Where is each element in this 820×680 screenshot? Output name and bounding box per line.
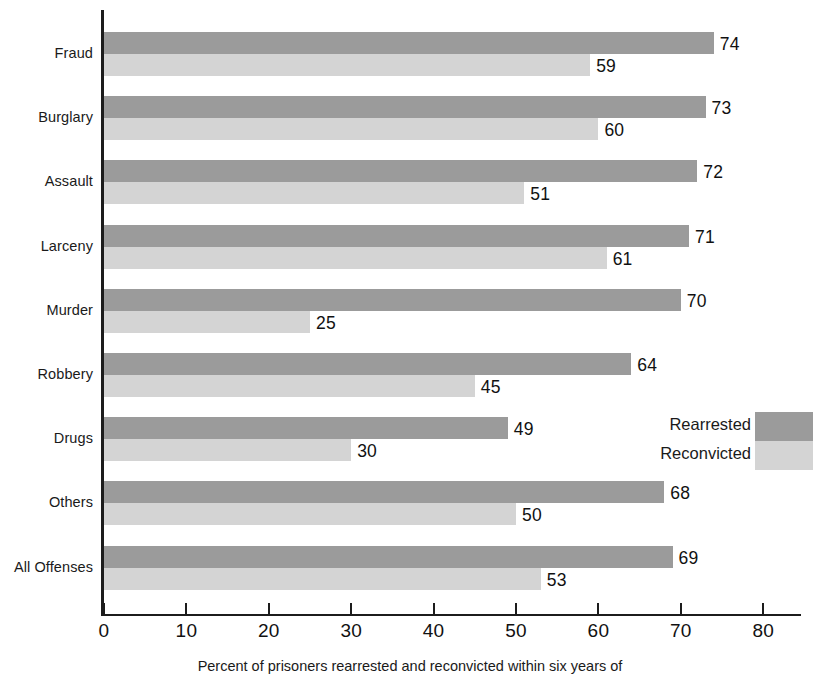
x-tick-40 <box>433 603 435 614</box>
bar-fraud-reconvicted <box>104 54 590 76</box>
bar-robbery-reconvicted <box>104 375 475 397</box>
category-label-assault: Assault <box>45 173 93 189</box>
x-tick-30 <box>350 603 352 614</box>
legend-item-rearrested: Rearrested <box>628 412 813 441</box>
category-label-others: Others <box>49 494 93 510</box>
bar-value-fraud-rearrested: 74 <box>720 34 740 55</box>
x-tick-10 <box>185 603 187 614</box>
x-tick-label-70: 70 <box>651 620 711 642</box>
legend-swatch-reconvicted <box>755 441 813 470</box>
bar-value-larceny-reconvicted: 61 <box>613 249 633 270</box>
bar-drugs-rearrested <box>104 417 508 439</box>
bar-value-all-offenses-reconvicted: 53 <box>547 570 567 591</box>
chart-caption: Percent of prisoners rearrested and reco… <box>0 658 820 674</box>
x-tick-70 <box>680 603 682 614</box>
legend-swatch-rearrested <box>755 412 813 441</box>
bar-drugs-reconvicted <box>104 439 351 461</box>
x-tick-label-60: 60 <box>568 620 628 642</box>
category-label-all-offenses: All Offenses <box>14 559 93 575</box>
bar-value-robbery-reconvicted: 45 <box>481 377 501 398</box>
x-tick-20 <box>268 603 270 614</box>
bar-value-assault-reconvicted: 51 <box>530 184 550 205</box>
bar-assault-reconvicted <box>104 182 524 204</box>
category-label-larceny: Larceny <box>41 238 93 254</box>
bar-value-robbery-rearrested: 64 <box>637 355 657 376</box>
bar-value-murder-rearrested: 70 <box>687 291 707 312</box>
category-label-fraud: Fraud <box>55 45 93 61</box>
x-tick-label-20: 20 <box>239 620 299 642</box>
bar-others-rearrested <box>104 481 664 503</box>
x-tick-80 <box>762 603 764 614</box>
legend-item-reconvicted: Reconvicted <box>628 441 813 470</box>
x-tick-label-10: 10 <box>156 620 216 642</box>
bar-chart: 01020304050607080 Fraud7459Burglary7360A… <box>0 0 820 680</box>
bar-value-assault-rearrested: 72 <box>703 162 723 183</box>
bar-value-drugs-reconvicted: 30 <box>357 441 377 462</box>
x-tick-50 <box>515 603 517 614</box>
legend: Rearrested Reconvicted <box>628 412 813 470</box>
x-tick-label-80: 80 <box>733 620 793 642</box>
bar-value-larceny-rearrested: 71 <box>695 227 715 248</box>
bar-value-burglary-reconvicted: 60 <box>604 120 624 141</box>
legend-label-rearrested: Rearrested <box>669 415 751 434</box>
bar-larceny-rearrested <box>104 225 689 247</box>
bar-larceny-reconvicted <box>104 247 607 269</box>
bar-others-reconvicted <box>104 503 516 525</box>
category-label-drugs: Drugs <box>54 430 93 446</box>
bar-value-burglary-rearrested: 73 <box>712 98 732 119</box>
legend-label-reconvicted: Reconvicted <box>660 444 751 463</box>
bar-murder-rearrested <box>104 289 681 311</box>
bar-value-others-rearrested: 68 <box>670 483 690 504</box>
x-tick-0 <box>103 603 105 614</box>
bar-all-offenses-reconvicted <box>104 568 541 590</box>
bar-fraud-rearrested <box>104 32 714 54</box>
bar-robbery-rearrested <box>104 353 631 375</box>
bar-burglary-rearrested <box>104 96 706 118</box>
x-axis-line <box>101 614 801 616</box>
x-tick-label-0: 0 <box>74 620 134 642</box>
bar-assault-rearrested <box>104 160 697 182</box>
bar-value-drugs-rearrested: 49 <box>514 419 534 440</box>
bar-value-all-offenses-rearrested: 69 <box>679 548 699 569</box>
bar-murder-reconvicted <box>104 311 310 333</box>
x-tick-60 <box>597 603 599 614</box>
x-tick-label-30: 30 <box>321 620 381 642</box>
category-label-burglary: Burglary <box>38 109 93 125</box>
category-label-murder: Murder <box>46 302 93 318</box>
x-tick-label-40: 40 <box>404 620 464 642</box>
category-label-robbery: Robbery <box>37 366 93 382</box>
x-tick-label-50: 50 <box>486 620 546 642</box>
bar-value-fraud-reconvicted: 59 <box>596 56 616 77</box>
bar-value-others-reconvicted: 50 <box>522 505 542 526</box>
bar-all-offenses-rearrested <box>104 546 673 568</box>
bar-value-murder-reconvicted: 25 <box>316 313 336 334</box>
bar-burglary-reconvicted <box>104 118 598 140</box>
